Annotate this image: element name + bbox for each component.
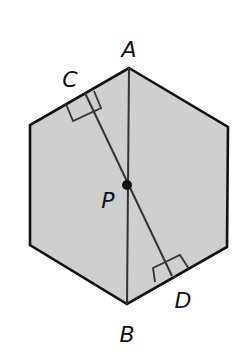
hexagon-diagram: A C P D B: [0, 0, 247, 354]
point-p: [122, 180, 132, 190]
label-b: B: [119, 322, 134, 347]
label-d: D: [175, 288, 192, 313]
label-c: C: [62, 67, 78, 92]
label-a: A: [119, 37, 136, 62]
label-p: P: [101, 188, 115, 213]
